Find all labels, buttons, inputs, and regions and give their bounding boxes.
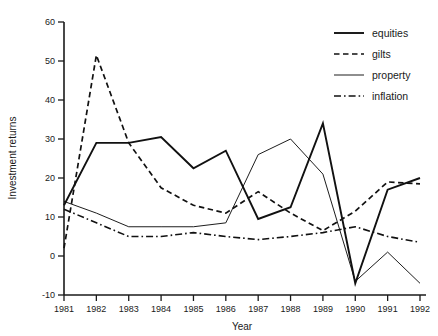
chart-plot-area: 6050403020100-10 19811982198319841985198… <box>0 0 438 336</box>
x-tick-label: 1984 <box>151 304 171 314</box>
y-tick-label: 30 <box>45 134 55 144</box>
y-axis-ticks <box>58 22 64 295</box>
series-line-inflation <box>64 209 420 242</box>
x-tick-label: 1983 <box>119 304 139 314</box>
series-line-property <box>64 139 420 283</box>
y-tick-label: 60 <box>45 17 55 27</box>
chart-legend: equitiesgiltspropertyinflation <box>334 27 411 102</box>
x-tick-label: 1986 <box>216 304 236 314</box>
x-tick-label: 1992 <box>410 304 430 314</box>
x-axis-ticks <box>64 295 420 301</box>
y-tick-label: 20 <box>45 173 55 183</box>
y-tick-label: 40 <box>45 95 55 105</box>
x-axis-title: Year <box>232 321 253 332</box>
y-axis-tick-labels: 6050403020100-10 <box>42 17 55 300</box>
x-axis-tick-labels: 1981198219831984198519861987198819891990… <box>54 304 430 314</box>
legend-label-gilts: gilts <box>372 48 391 60</box>
x-tick-label: 1989 <box>313 304 333 314</box>
x-tick-label: 1991 <box>378 304 398 314</box>
y-tick-label: 50 <box>45 56 55 66</box>
series-line-gilts <box>64 55 420 248</box>
x-tick-label: 1981 <box>54 304 74 314</box>
y-tick-label: 10 <box>45 212 55 222</box>
x-tick-label: 1987 <box>248 304 268 314</box>
investment-returns-chart: 6050403020100-10 19811982198319841985198… <box>0 0 438 336</box>
x-tick-label: 1985 <box>183 304 203 314</box>
legend-label-property: property <box>372 69 411 81</box>
y-tick-label: -10 <box>42 290 55 300</box>
x-tick-label: 1988 <box>281 304 301 314</box>
x-tick-label: 1982 <box>86 304 106 314</box>
y-axis-title: Investment returns <box>7 117 18 200</box>
x-tick-label: 1990 <box>345 304 365 314</box>
legend-label-inflation: inflation <box>372 90 408 102</box>
y-tick-label: 0 <box>50 251 55 261</box>
legend-label-equities: equities <box>372 27 408 39</box>
